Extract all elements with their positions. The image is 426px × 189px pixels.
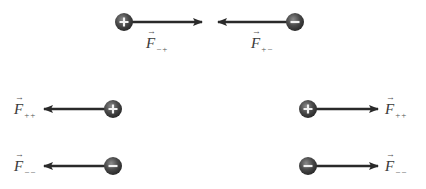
force-subscript: +−: [261, 44, 273, 54]
positive-charge: [299, 100, 317, 118]
negative-charge: [286, 13, 304, 31]
force-symbol: F: [251, 36, 260, 51]
right-repulsion-group: [299, 100, 378, 175]
force-symbol: F: [385, 102, 394, 117]
force-subscript: ++: [24, 110, 36, 120]
force-subscript: ++: [395, 110, 407, 120]
negative-charge: [104, 157, 122, 175]
force-symbol: F: [14, 159, 23, 174]
positive-charge: [115, 13, 133, 31]
force-subscript: −−: [395, 167, 407, 177]
force-label-plus-plus-right: F++: [385, 102, 407, 117]
force-subscript: −−: [24, 167, 36, 177]
negative-charge: [299, 157, 317, 175]
left-repulsion-group: [44, 100, 122, 175]
force-symbol: F: [14, 102, 23, 117]
force-diagram: [0, 0, 426, 189]
force-label-minus-minus-right: F−−: [385, 159, 407, 174]
force-label-minus-plus: F−+: [146, 36, 168, 51]
force-label-plus-plus-left: F++: [14, 102, 36, 117]
force-symbol: F: [146, 36, 155, 51]
force-symbol: F: [385, 159, 394, 174]
force-label-minus-minus-left: F−−: [14, 159, 36, 174]
force-subscript: −+: [156, 44, 168, 54]
force-label-plus-minus: F+−: [251, 36, 273, 51]
attraction-pair: [115, 13, 304, 31]
positive-charge: [104, 100, 122, 118]
